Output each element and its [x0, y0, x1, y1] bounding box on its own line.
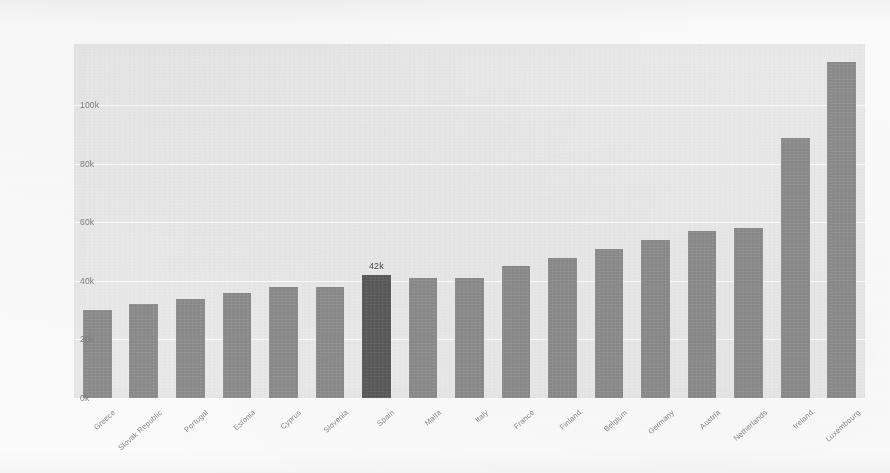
x-axis-tick-label: Slovenia — [322, 408, 350, 435]
bar[interactable] — [316, 287, 345, 398]
x-axis-tick-label: Spain — [376, 408, 397, 428]
x-axis-tick-label: Finland — [557, 408, 582, 432]
x-axis-tick-label: Malta — [423, 408, 443, 427]
bar[interactable] — [502, 266, 531, 398]
bar[interactable] — [781, 138, 810, 398]
bar[interactable] — [641, 240, 670, 398]
bar[interactable] — [83, 310, 112, 398]
bar[interactable] — [734, 228, 763, 398]
x-axis-tick-label: Greece — [92, 408, 117, 432]
y-axis-tick-label: 60k — [80, 217, 94, 227]
bar[interactable] — [548, 258, 577, 398]
x-axis-tick-label: Ireland — [791, 408, 815, 431]
y-axis-tick-label: 20k — [80, 334, 94, 344]
y-axis-tick-label: 40k — [80, 276, 94, 286]
x-axis-tick-label: Slovak Republic — [116, 408, 164, 452]
bar-value-label: 42k — [369, 261, 384, 271]
x-axis-tick-label: Germany — [646, 408, 676, 436]
bar[interactable] — [455, 278, 484, 398]
x-axis-tick-label: Belgium — [602, 408, 629, 434]
bar[interactable] — [176, 299, 205, 398]
x-axis-tick-label: Estonia — [231, 408, 256, 432]
y-axis-tick-label: 80k — [80, 159, 94, 169]
x-axis-tick-label: Luxembourg — [824, 408, 862, 444]
bar[interactable] — [269, 287, 298, 398]
bar[interactable] — [595, 249, 624, 398]
chart-category-axis: GreeceSlovak RepublicPortugalEstoniaCypr… — [74, 398, 865, 473]
bar[interactable] — [362, 275, 391, 398]
bar[interactable] — [223, 293, 252, 398]
bar[interactable] — [827, 62, 856, 398]
bar[interactable] — [409, 278, 438, 398]
x-axis-tick-label: Austria — [698, 408, 722, 431]
bar[interactable] — [688, 231, 717, 398]
x-axis-tick-label: Cyprus — [279, 408, 303, 431]
bar-chart-figure: 0k20k40k60k80k100k 42k GreeceSlovak Repu… — [40, 16, 890, 473]
chart-bars-layer: 42k — [74, 44, 865, 398]
x-axis-tick-label: Italy — [473, 408, 490, 424]
y-axis-tick-label: 100k — [80, 100, 99, 110]
x-axis-tick-label: France — [512, 408, 536, 431]
bar[interactable] — [129, 304, 158, 398]
x-axis-tick-label: Netherlands — [731, 408, 768, 443]
x-axis-tick-label: Portugal — [183, 408, 211, 434]
